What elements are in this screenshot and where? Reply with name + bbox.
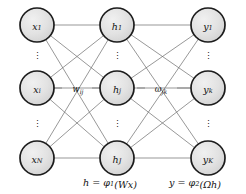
node-yK: yK (191, 141, 225, 175)
equation-output-activation: y = φ2(Ωh) (168, 177, 221, 190)
weight-label-w-ij: wij (72, 84, 83, 96)
vertical-ellipsis-input-layer-0: ⋮ (33, 51, 42, 61)
equations-group: h = φ1(Wx)y = φ2(Ωh) (83, 177, 221, 190)
node-h1: h1 (100, 8, 134, 42)
node-x1: x1 (20, 8, 54, 42)
node-hj: hj (100, 71, 134, 105)
node-yk: yk (191, 71, 225, 105)
node-xN: xN (20, 141, 54, 175)
vertical-ellipsis-hidden-layer-0: ⋮ (113, 51, 122, 61)
nodes-group: x1xixNh1hjhJy1ykyK (20, 8, 225, 175)
node-hJ: hJ (100, 141, 134, 175)
equation-hidden-activation: h = φ1(Wx) (83, 177, 137, 190)
network-canvas: x1xixNh1hjhJy1ykyK ⋮⋮⋮⋮⋮⋮ wijωjk h = φ1(… (0, 0, 246, 194)
neural-network-figure: x1xixNh1hjhJy1ykyK ⋮⋮⋮⋮⋮⋮ wijωjk h = φ1(… (0, 0, 246, 194)
vertical-ellipsis-input-layer-1: ⋮ (33, 119, 42, 129)
weight-label-omega-jk: ωjk (155, 84, 168, 96)
vertical-ellipsis-hidden-layer-1: ⋮ (113, 119, 122, 129)
vertical-ellipsis-output-layer-0: ⋮ (204, 51, 213, 61)
vertical-ellipsis-output-layer-1: ⋮ (204, 119, 213, 129)
node-y1: y1 (191, 8, 225, 42)
node-xi: xi (20, 71, 54, 105)
